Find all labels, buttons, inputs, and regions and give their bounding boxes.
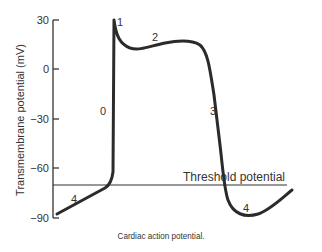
chart-figure: 30 0 −30 −60 −90 Transmembrane potential… [0, 0, 322, 252]
action-potential-curve [57, 20, 292, 215]
phase-label-2: 2 [152, 31, 158, 43]
y-tick-label-minus90: −90 [30, 212, 49, 224]
y-tick-label-0: 0 [43, 63, 49, 75]
phase-label-1: 1 [117, 16, 123, 28]
phase-label-4-left: 4 [71, 193, 77, 205]
phase-label-0: 0 [100, 105, 106, 117]
y-tick-label-minus60: −60 [30, 162, 49, 174]
phase-label-3: 3 [210, 105, 216, 117]
phase-label-4-right: 4 [243, 202, 249, 214]
y-tick-label-minus30: −30 [30, 113, 49, 125]
action-potential-chart: 30 0 −30 −60 −90 Transmembrane potential… [0, 0, 322, 252]
y-tick-label-30: 30 [37, 14, 49, 26]
threshold-label: Threshold potential [183, 170, 285, 184]
figure-caption: Cardiac action potential. [16, 231, 306, 241]
y-axis-label: Transmembrane potential (mV) [14, 44, 26, 196]
